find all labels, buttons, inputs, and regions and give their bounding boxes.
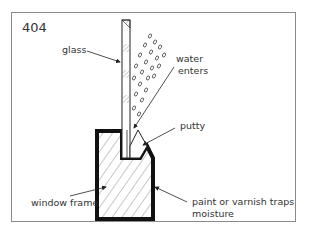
water-leader — [134, 67, 174, 128]
label-window-frame: window frame — [31, 197, 98, 209]
paint-leader — [155, 187, 187, 202]
putty-leader — [143, 128, 175, 145]
glass-leader — [87, 51, 120, 62]
label-glass: glass — [62, 44, 86, 56]
label-putty: putty — [180, 120, 205, 132]
water-drops — [132, 33, 166, 116]
label-enters: enters — [178, 65, 208, 77]
label-water: water — [176, 53, 203, 65]
label-paint: paint or varnish traps — [192, 196, 294, 208]
figure-number: 404 — [22, 20, 47, 35]
glass-pane — [122, 20, 130, 158]
label-moisture: moisture — [192, 208, 234, 220]
